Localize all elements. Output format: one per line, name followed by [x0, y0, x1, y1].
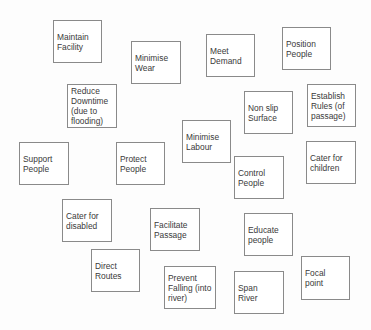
- card-label-line: Surface: [248, 113, 289, 123]
- card-label-line: disabled: [66, 221, 108, 231]
- card-label-line: Wear: [135, 63, 177, 73]
- card-label-line: river): [168, 293, 212, 303]
- card-direct-routes: DirectRoutes: [91, 249, 140, 292]
- card-protect-people: ProtectPeople: [116, 142, 165, 185]
- card-label-line: (due to: [71, 106, 113, 116]
- card-label-line: Position: [286, 39, 327, 49]
- card-label-line: Downtime: [71, 96, 113, 106]
- card-label-line: Prevent: [168, 273, 212, 283]
- card-label-line: Reduce: [71, 86, 113, 96]
- card-label-line: Meet: [210, 46, 251, 56]
- card-label-line: Facilitate: [154, 220, 196, 230]
- card-label-line: Establish: [311, 91, 352, 101]
- card-reduce-downtime: ReduceDowntime(due toflooding): [67, 84, 117, 128]
- card-facilitate-passage: FacilitatePassage: [150, 208, 200, 251]
- card-label-line: Cater for: [66, 211, 108, 221]
- card-cater-for-disabled: Cater fordisabled: [62, 199, 112, 242]
- card-educate-people: Educatepeople: [244, 213, 293, 256]
- card-label-line: flooding): [71, 116, 113, 126]
- card-establish-rules: EstablishRules (ofpassage): [307, 84, 356, 127]
- card-label-line: passage): [311, 111, 352, 121]
- card-maintain-facility: MaintainFacility: [53, 20, 102, 63]
- card-label-line: Maintain: [57, 32, 98, 42]
- card-label-line: children: [310, 163, 352, 173]
- card-minimise-wear: MinimiseWear: [131, 41, 181, 84]
- card-label-line: People: [238, 178, 280, 188]
- card-label-line: Cater for: [310, 153, 352, 163]
- card-label-line: People: [120, 164, 161, 174]
- card-position-people: PositionPeople: [282, 27, 331, 70]
- card-label-line: Span: [238, 283, 280, 293]
- card-label-line: Passage: [154, 230, 196, 240]
- card-label-line: River: [238, 293, 280, 303]
- card-label-line: Minimise: [186, 132, 227, 142]
- card-label-line: Support: [23, 154, 65, 164]
- card-label-line: Facility: [57, 42, 98, 52]
- card-meet-demand: MeetDemand: [206, 34, 255, 77]
- card-label-line: Educate: [248, 225, 289, 235]
- card-label-line: Labour: [186, 142, 227, 152]
- card-label-line: Direct: [95, 261, 136, 271]
- card-cater-for-children: Cater forchildren: [306, 141, 356, 184]
- card-label-line: People: [286, 49, 327, 59]
- card-label-line: Control: [238, 168, 280, 178]
- card-label-line: Focal: [305, 268, 346, 278]
- card-label-line: point: [305, 278, 346, 288]
- card-minimise-labour: MinimiseLabour: [182, 120, 231, 163]
- card-label-line: Routes: [95, 271, 136, 281]
- card-support-people: SupportPeople: [19, 142, 69, 185]
- card-label-line: Demand: [210, 56, 251, 66]
- card-label-line: people: [248, 235, 289, 245]
- card-prevent-falling: PreventFalling (intoriver): [164, 266, 216, 309]
- card-label-line: Protect: [120, 154, 161, 164]
- card-non-slip-surface: Non slipSurface: [244, 91, 293, 134]
- card-control-people: ControlPeople: [234, 156, 284, 199]
- card-focal-point: Focalpoint: [301, 256, 350, 300]
- card-label-line: People: [23, 164, 65, 174]
- card-label-line: Falling (into: [168, 283, 212, 293]
- card-label-line: Non slip: [248, 103, 289, 113]
- card-span-river: SpanRiver: [234, 271, 284, 314]
- card-label-line: Rules (of: [311, 101, 352, 111]
- card-label-line: Minimise: [135, 53, 177, 63]
